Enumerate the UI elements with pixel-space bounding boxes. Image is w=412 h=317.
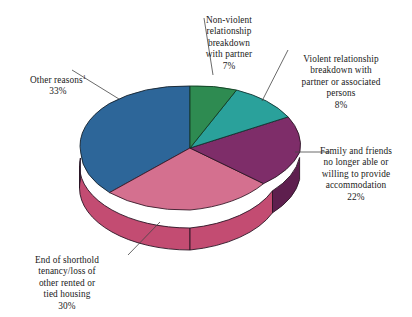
callout-other-reasons: Other reasons1 33% <box>6 63 110 109</box>
callout-shorthold-text: End of shorthold tenancy/loss of other r… <box>35 255 99 300</box>
callout-shorthold: End of shorthold tenancy/loss of other r… <box>12 243 122 317</box>
callout-non-violent-pct: 7% <box>186 61 272 73</box>
callout-other-reasons-pct: 33% <box>6 86 110 98</box>
callout-violent: Violent relationship breakdown with part… <box>274 42 408 123</box>
callout-violent-text: Violent relationship breakdown with part… <box>301 54 380 99</box>
pie-top-face <box>80 86 300 210</box>
callout-other-reasons-text: Other reasons <box>30 75 83 85</box>
callout-non-violent-text: Non-violent relationship breakdown with … <box>206 15 252 60</box>
callout-non-violent: Non-violent relationship breakdown with … <box>186 3 272 84</box>
footnote-marker-1: 1 <box>83 73 86 80</box>
callout-family-friends-pct: 22% <box>304 192 408 204</box>
callout-family-friends: Family and friends no longer able or wil… <box>304 134 408 215</box>
callout-family-friends-text: Family and friends no longer able or wil… <box>320 146 392 191</box>
callout-violent-pct: 8% <box>274 100 408 112</box>
callout-shorthold-pct: 30% <box>12 301 122 313</box>
pie-chart: Other reasons1 33% Non-violent relations… <box>0 0 412 317</box>
